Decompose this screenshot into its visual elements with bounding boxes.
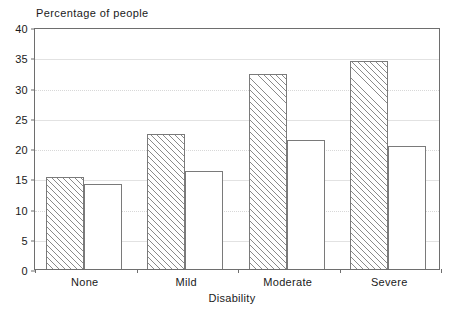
x-tick-label-severe: Severe bbox=[371, 276, 408, 288]
x-tick-mark bbox=[35, 269, 36, 273]
y-tick-label: 35 bbox=[15, 53, 28, 65]
x-tick-mark bbox=[340, 269, 341, 273]
y-tick-mark bbox=[31, 150, 35, 151]
x-tick-label-moderate: Moderate bbox=[263, 276, 312, 288]
y-tick-mark bbox=[31, 59, 35, 60]
x-tick-label-none: None bbox=[71, 276, 99, 288]
y-tick-label: 20 bbox=[15, 144, 28, 156]
x-tick-label-mild: Mild bbox=[176, 276, 197, 288]
axis-ticks: 0510152025303540 bbox=[35, 29, 439, 269]
y-tick-label: 30 bbox=[15, 84, 28, 96]
x-tick-mark bbox=[238, 269, 239, 273]
y-tick-mark bbox=[31, 89, 35, 90]
x-tick-mark bbox=[137, 269, 138, 273]
y-tick-label: 0 bbox=[22, 265, 28, 277]
y-tick-label: 25 bbox=[15, 114, 28, 126]
chart-title: Percentage of people bbox=[36, 7, 149, 19]
y-tick-mark bbox=[31, 210, 35, 211]
y-tick-mark bbox=[31, 240, 35, 241]
y-tick-label: 10 bbox=[15, 205, 28, 217]
y-tick-label: 15 bbox=[15, 174, 28, 186]
x-axis-title: Disability bbox=[0, 292, 464, 304]
y-tick-mark bbox=[31, 180, 35, 181]
y-tick-label: 40 bbox=[15, 23, 28, 35]
y-tick-label: 5 bbox=[22, 235, 28, 247]
y-tick-mark bbox=[31, 29, 35, 30]
plot-area: 0510152025303540 bbox=[34, 28, 440, 270]
y-tick-mark bbox=[31, 119, 35, 120]
bar-chart: Percentage of people 0510152025303540 No… bbox=[0, 0, 464, 318]
x-tick-mark bbox=[441, 269, 442, 273]
